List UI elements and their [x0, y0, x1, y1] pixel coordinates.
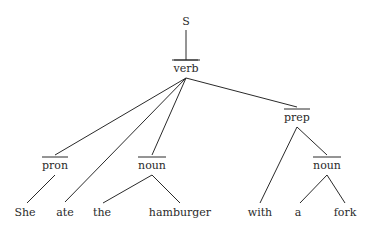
word-with: with — [248, 206, 272, 219]
word-hamburger: hamburger — [149, 206, 212, 219]
node-pron: pron — [42, 159, 68, 172]
word-fork: fork — [334, 206, 357, 219]
edge-noun-the — [103, 175, 152, 203]
edge-verb-ate — [65, 78, 186, 202]
word-she: She — [14, 206, 35, 219]
node-noun: noun — [138, 159, 166, 172]
edge-prep-noun — [297, 127, 327, 155]
edge-verb-pron — [55, 78, 186, 155]
node-verb: verb — [172, 62, 198, 75]
edge-noun-fork — [327, 175, 345, 203]
edge-prep-with — [260, 127, 297, 203]
node-noun-2: noun — [313, 159, 341, 172]
edge-noun-hamburger — [152, 175, 180, 203]
node-prep: prep — [284, 111, 310, 124]
word-ate: ate — [56, 206, 74, 219]
edge-verb-prep — [186, 78, 297, 107]
edge-pron-she — [27, 175, 55, 203]
word-the: the — [93, 206, 111, 219]
parse-tree-diagram: S verb pron noun prep noun She ate the h… — [0, 0, 372, 230]
word-a: a — [295, 206, 302, 219]
edge-noun-a — [300, 175, 327, 203]
node-s: S — [182, 15, 190, 28]
edge-verb-noun — [152, 78, 186, 155]
